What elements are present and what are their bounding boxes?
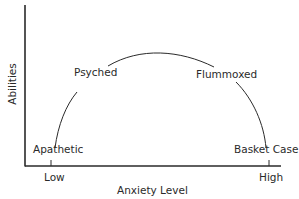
apathetic-label: Apathetic (33, 143, 83, 155)
x-axis-label: Anxiety Level (117, 184, 188, 196)
flummoxed-label: Flummoxed (196, 68, 257, 80)
chart-canvas (0, 0, 299, 199)
curve-peak (108, 53, 214, 67)
psyched-label: Psyched (74, 66, 117, 78)
basket-case-label: Basket Case (234, 143, 298, 155)
curve-rising (55, 92, 77, 148)
curve-falling (236, 82, 266, 148)
high-tick-label: High (259, 171, 283, 183)
low-tick-label: Low (44, 171, 65, 183)
y-axis-label: Abilities (6, 63, 18, 105)
